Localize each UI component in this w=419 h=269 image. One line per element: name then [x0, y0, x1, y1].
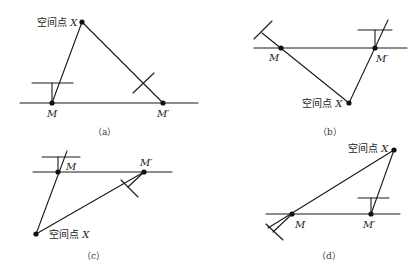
point-x	[33, 231, 38, 236]
caption-c: （c）	[82, 251, 105, 261]
m-label: M	[46, 108, 58, 119]
point-x	[79, 19, 84, 24]
panel-d: 空间点 X M M′ （d）	[266, 142, 400, 261]
m-prime-label: M′	[139, 157, 153, 168]
point-x	[391, 147, 396, 152]
ray-x-m	[36, 151, 67, 234]
diagram-canvas: 空间点 X M M′ （a） 空间点 X M M′ （b） 空间点 X M M′	[0, 0, 419, 269]
ray-x-m	[268, 150, 394, 228]
point-m-prime	[368, 211, 373, 216]
point-m-prime	[372, 45, 377, 50]
caption-a: （a）	[93, 127, 116, 137]
point-m	[289, 211, 294, 216]
caption-b: （b）	[318, 127, 342, 137]
caption-d: （d）	[317, 251, 341, 261]
point-m	[55, 169, 60, 174]
panel-b: 空间点 X M M′ （b）	[254, 20, 407, 137]
point-x-label: 空间点 X	[302, 97, 343, 109]
point-m-prime	[160, 100, 165, 105]
point-x-label: 空间点 X	[348, 142, 389, 154]
ray-x-m-prime	[371, 150, 394, 214]
ray-x-m-prime	[36, 172, 144, 234]
point-m	[49, 100, 54, 105]
m-prime-label: M′	[362, 219, 376, 230]
panel-a: 空间点 X M M′ （a）	[20, 16, 198, 137]
cross-mark	[121, 180, 138, 197]
cross-mark	[266, 224, 283, 240]
ray-x-m	[262, 33, 349, 103]
m-prime-label: M′	[156, 108, 170, 119]
ray-x-m	[52, 22, 82, 103]
m-prime-label: M′	[375, 53, 389, 64]
m-label: M	[268, 52, 280, 63]
point-x-label: 空间点 X	[37, 16, 78, 28]
point-x-label: 空间点 X	[49, 228, 90, 240]
point-m-prime	[141, 169, 146, 174]
m-label: M	[294, 219, 306, 230]
m-label: M	[65, 161, 77, 172]
panel-c: 空间点 X M M′ （c）	[33, 151, 172, 261]
point-m	[278, 45, 283, 50]
cross-mark	[254, 21, 272, 39]
ray-x-m-prime	[82, 22, 163, 103]
point-x	[346, 100, 351, 105]
